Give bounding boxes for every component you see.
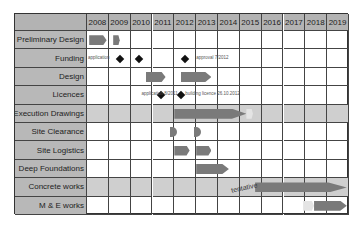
grid-cell <box>327 105 349 123</box>
grid-cell <box>305 86 327 104</box>
grid-cell <box>153 31 175 49</box>
grid-cell <box>284 68 306 86</box>
grid-cell <box>284 141 306 159</box>
grid-cell <box>109 86 131 104</box>
grid-cell <box>109 68 131 86</box>
grid-cell <box>327 141 349 159</box>
grid-cell <box>131 160 153 178</box>
grid-cell <box>218 123 240 141</box>
grid-cell <box>196 197 218 215</box>
grid-cell <box>262 123 284 141</box>
grid-cell <box>327 160 349 178</box>
row-label: M & E works <box>15 197 87 215</box>
grid-cell <box>284 160 306 178</box>
row-label: Site Logistics <box>15 141 87 159</box>
grid-cell <box>305 31 327 49</box>
grid-cell <box>153 160 175 178</box>
grid-cell <box>240 86 262 104</box>
grid-cell <box>218 141 240 159</box>
grid-cell <box>131 178 153 196</box>
row-label: Design <box>15 68 87 86</box>
task-bar <box>181 72 212 82</box>
task-bar <box>174 146 189 156</box>
grid-cell <box>109 160 131 178</box>
task-bar <box>146 72 166 82</box>
grid-cell <box>109 31 131 49</box>
task-bar <box>246 109 253 119</box>
grid-cell <box>174 160 196 178</box>
year-header: 2009 <box>109 14 131 31</box>
grid-cell <box>240 160 262 178</box>
grid-cell <box>87 105 109 123</box>
annotation: application <box>88 55 110 60</box>
header-corner <box>15 14 87 31</box>
grid-cell <box>262 31 284 49</box>
grid-cell <box>109 197 131 215</box>
year-header: 2019 <box>327 14 349 31</box>
grid-cell <box>284 123 306 141</box>
grid-cell <box>240 68 262 86</box>
grid-cell <box>240 123 262 141</box>
annotation: approval 7/2012 <box>196 55 228 60</box>
grid-cell <box>284 197 306 215</box>
year-header: 2013 <box>196 14 218 31</box>
grid-cell <box>87 197 109 215</box>
year-header: 2012 <box>174 14 196 31</box>
grid-cell <box>262 86 284 104</box>
grid-cell <box>153 178 175 196</box>
year-header: 2010 <box>131 14 153 31</box>
year-header: 2011 <box>153 14 175 31</box>
grid-cell <box>87 160 109 178</box>
row-label: Concrete works <box>15 178 87 196</box>
grid-cell <box>240 141 262 159</box>
annotation: application 8/2011 <box>142 91 178 96</box>
year-header: 2016 <box>262 14 284 31</box>
grid-cell <box>153 105 175 123</box>
grid-cell <box>109 178 131 196</box>
grid-cell <box>327 68 349 86</box>
grid-cell <box>131 197 153 215</box>
grid-cell <box>174 123 196 141</box>
year-header: 2014 <box>218 14 240 31</box>
year-header: 2015 <box>240 14 262 31</box>
grid-cell <box>87 123 109 141</box>
grid-cell <box>305 49 327 67</box>
row-label: Funding <box>15 49 87 67</box>
row-label: Execution Drawings <box>15 105 87 123</box>
grid-cell <box>262 197 284 215</box>
grid-cell <box>196 178 218 196</box>
grid-cell <box>305 68 327 86</box>
grid-cell <box>131 141 153 159</box>
grid-cell <box>327 31 349 49</box>
grid-cell <box>109 141 131 159</box>
task-bar <box>113 35 120 45</box>
grid-cell <box>218 31 240 49</box>
task-bar <box>314 201 347 211</box>
grid-cell <box>87 86 109 104</box>
grid-cell <box>240 197 262 215</box>
grid-cell <box>109 105 131 123</box>
row-label: Preliminary Design <box>15 31 87 49</box>
year-header: 2017 <box>284 14 306 31</box>
grid-cell <box>87 68 109 86</box>
grid-cell <box>305 105 327 123</box>
task-bar <box>196 164 229 174</box>
grid-cell <box>87 178 109 196</box>
gantt-chart: 2008200920102011201220132014201520162017… <box>14 13 348 214</box>
grid-cell <box>174 178 196 196</box>
row-label: Site Clearance <box>15 123 87 141</box>
grid-cell <box>262 105 284 123</box>
grid-cell <box>196 31 218 49</box>
grid-cell <box>87 141 109 159</box>
grid-cell <box>305 141 327 159</box>
task-bar <box>303 201 314 211</box>
grid-cell <box>284 49 306 67</box>
grid-cell <box>284 105 306 123</box>
row-label: Licences <box>15 86 87 104</box>
grid-cell <box>327 49 349 67</box>
grid-cell <box>284 31 306 49</box>
year-header: 2018 <box>305 14 327 31</box>
grid-cell <box>262 141 284 159</box>
grid-cell <box>327 123 349 141</box>
grid-cell <box>109 123 131 141</box>
